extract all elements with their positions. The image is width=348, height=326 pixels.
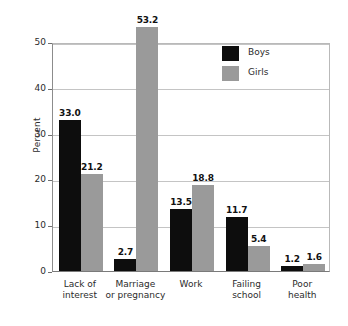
y-tick-label: 20 (6, 174, 46, 184)
legend-label-girls: Girls (248, 67, 268, 77)
legend-label-boys: Boys (248, 47, 270, 57)
bar-boys (281, 266, 303, 271)
bar-value-label: 1.6 (296, 252, 332, 262)
bar-boys (114, 259, 136, 271)
legend-swatch-boys-icon (222, 46, 239, 61)
plot-area: 33.021.22.753.213.518.811.75.41.21.6 (52, 43, 330, 272)
bar-girls (136, 27, 158, 271)
bar-boys (170, 209, 192, 271)
gridline (53, 135, 329, 136)
bar-girls (192, 185, 214, 271)
gridline (53, 44, 329, 45)
bar-value-label: 53.2 (129, 15, 165, 25)
y-tick-label: 50 (6, 37, 46, 47)
bar-value-label: 21.2 (74, 162, 110, 172)
bar-value-label: 11.7 (219, 205, 255, 215)
bar-value-label: 18.8 (185, 173, 221, 183)
y-tick-label: 30 (6, 129, 46, 139)
bar-girls (248, 246, 270, 271)
bar-value-label: 5.4 (241, 234, 277, 244)
bar-boys (59, 120, 81, 271)
y-tick-mark (48, 272, 52, 273)
y-tick-label: 0 (6, 266, 46, 276)
y-tick-label: 10 (6, 220, 46, 230)
bar-girls (303, 264, 325, 271)
bar-value-label: 33.0 (52, 108, 88, 118)
x-axis-label: Poor health (264, 279, 340, 301)
gridline (53, 89, 329, 90)
legend-swatch-girls-icon (222, 66, 239, 81)
y-tick-label: 40 (6, 83, 46, 93)
bar-chart: Percent 01020304050 33.021.22.753.213.51… (0, 0, 348, 326)
bar-girls (81, 174, 103, 271)
